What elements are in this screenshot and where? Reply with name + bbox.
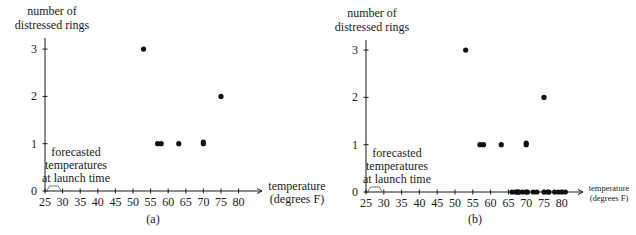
panel-b: number of distressed rings temperature (… [335, 6, 630, 226]
x-tick-label: 55 [467, 196, 479, 210]
y-tick-label: 1 [352, 138, 358, 152]
annotation-line2: temperatures [45, 158, 107, 172]
y-tick-label: 0 [31, 184, 37, 198]
data-point [525, 189, 530, 194]
forecast-range-bracket [47, 186, 62, 191]
data-point [463, 48, 468, 53]
data-point [141, 47, 146, 52]
x-tick-label: 60 [162, 195, 174, 209]
scatter-plots: number of distressed rings temperature (… [0, 0, 636, 235]
x-tick-label: 65 [180, 195, 192, 209]
x-tick-label: 35 [74, 195, 86, 209]
x-tick-label: 60 [485, 196, 497, 210]
data-point [159, 141, 164, 146]
x-tick-label: 70 [197, 195, 209, 209]
y-axis-label-line1: number of [347, 6, 397, 20]
annotation-line3: at launch time [363, 172, 431, 186]
y-tick-label: 3 [352, 43, 358, 57]
y-axis-label-line1: number of [27, 4, 77, 18]
data-point [499, 142, 504, 147]
y-tick-label: 2 [352, 90, 358, 104]
y-tick-label: 0 [352, 185, 358, 199]
y-tick-label: 3 [31, 42, 37, 56]
y-tick-label: 1 [31, 137, 37, 151]
y-axis-label-line2: distressed rings [15, 18, 90, 32]
x-tick-label: 35 [396, 196, 408, 210]
data-point [534, 189, 539, 194]
data-point [546, 189, 551, 194]
annotation-line1: forecasted [372, 146, 421, 160]
x-tick-label: 80 [556, 196, 568, 210]
x-tick-label: 25 [39, 195, 51, 209]
data-point [201, 140, 206, 145]
x-tick-label: 40 [92, 195, 104, 209]
x-tick-label: 30 [378, 196, 390, 210]
panel-caption: (a) [146, 212, 159, 226]
challenger-oring-figure: number of distressed rings temperature (… [0, 0, 636, 235]
data-point [541, 95, 546, 100]
x-tick-label: 65 [502, 196, 514, 210]
data-point [563, 189, 568, 194]
data-points [141, 47, 224, 147]
x-tick-label: 55 [145, 195, 157, 209]
x-tick-label: 80 [233, 195, 245, 209]
x-tick-label: 45 [431, 196, 443, 210]
forecast-range-bracket [368, 187, 383, 192]
x-tick-label: 50 [449, 196, 461, 210]
annotation-line2: temperatures [366, 159, 428, 173]
panel-caption: (b) [468, 212, 482, 226]
data-point [524, 141, 529, 146]
x-tick-label: 40 [413, 196, 425, 210]
panel-a: number of distressed rings temperature (… [15, 4, 326, 226]
x-tick-label: 75 [215, 195, 227, 209]
x-tick-label: 30 [57, 195, 69, 209]
x-tick-label: 75 [538, 196, 550, 210]
x-tick-label: 70 [520, 196, 532, 210]
x-tick-label: 45 [109, 195, 121, 209]
data-point [176, 141, 181, 146]
x-tick-label: 50 [127, 195, 139, 209]
x-axis-label-line2: (degrees F) [270, 192, 324, 206]
x-axis-label-line1: temperature [268, 179, 325, 193]
x-tick-label: 25 [360, 196, 372, 210]
x-axis-label-line1: temperature [589, 183, 630, 193]
y-axis-label-line2: distressed rings [335, 20, 410, 34]
data-point [218, 94, 223, 99]
x-axis-label-line2: (degrees F) [590, 193, 629, 203]
annotation-line3: at launch time [42, 171, 110, 185]
data-point [481, 142, 486, 147]
data-points [463, 48, 568, 195]
y-tick-label: 2 [31, 89, 37, 103]
annotation-line1: forecasted [51, 145, 100, 159]
